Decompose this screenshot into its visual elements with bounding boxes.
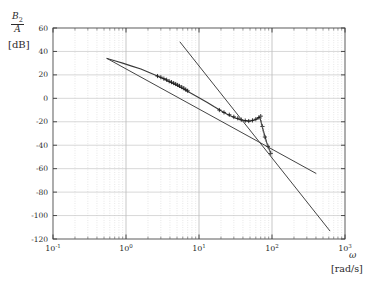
y-tick-label: -100 bbox=[31, 211, 48, 220]
y-tick-label: 20 bbox=[38, 70, 48, 79]
x-tick-label: 101 bbox=[192, 243, 206, 253]
y-axis-unit-label: [dB] bbox=[8, 39, 30, 50]
y-tick-label: -40 bbox=[36, 141, 48, 150]
bode-magnitude-figure: B2 A [dB] ω [rad/s] 6040200-20-40-60-80-… bbox=[0, 0, 372, 284]
x-axis-unit-label: [rad/s] bbox=[331, 263, 363, 274]
low-frequency-asymptote bbox=[107, 58, 316, 173]
y-tick-label: -60 bbox=[36, 164, 48, 173]
y-axis-label-denominator: A bbox=[10, 25, 25, 34]
y-axis-tick-labels: 6040200-20-40-60-80-100-120 bbox=[31, 24, 48, 244]
y-tick-label: 0 bbox=[43, 94, 48, 103]
y-tick-label: 60 bbox=[38, 24, 48, 33]
x-axis-tick-labels: 10-1100101102103 bbox=[45, 243, 352, 253]
y-axis-label-fraction: B2 A bbox=[10, 12, 25, 34]
x-tick-label: 100 bbox=[119, 243, 133, 253]
data-series-layer bbox=[107, 42, 330, 231]
high-frequency-asymptote bbox=[180, 42, 330, 231]
y-tick-label: 40 bbox=[38, 47, 48, 56]
x-tick-label: 10-1 bbox=[45, 243, 61, 253]
y-tick-label: -80 bbox=[36, 188, 48, 197]
y-tick-label: -120 bbox=[31, 235, 48, 244]
data-marker-group bbox=[155, 74, 272, 156]
minor-gridlines bbox=[75, 28, 342, 239]
measured-response-curve bbox=[107, 58, 270, 152]
x-tick-label: 102 bbox=[265, 243, 279, 253]
y-tick-label: -20 bbox=[36, 117, 48, 126]
plot-canvas: 6040200-20-40-60-80-100-120 10-110010110… bbox=[0, 0, 372, 284]
y-axis-label-numerator: B2 bbox=[10, 12, 25, 24]
x-axis-symbol-label: ω bbox=[349, 250, 356, 260]
